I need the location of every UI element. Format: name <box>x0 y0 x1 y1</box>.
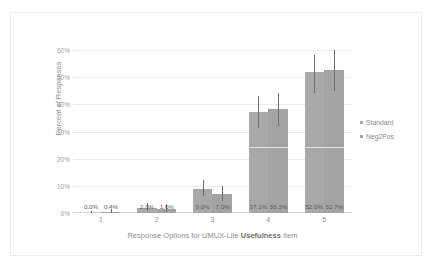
legend-swatch-icon-standard <box>360 121 363 124</box>
bar-group-4: 37.1% 38.3% <box>240 50 296 213</box>
chart-figure: Percent of Responses 60% 50% 40% 30% 20%… <box>0 0 432 269</box>
errorbar-standard-3 <box>203 180 204 195</box>
errorbar-standard-5 <box>314 55 315 93</box>
y-tick-20: 20% <box>38 155 70 162</box>
errorbar-neg2pos-5 <box>334 50 335 91</box>
data-label-neg2pos-2: 1.6% <box>153 203 181 210</box>
y-tick-60: 60% <box>38 47 70 54</box>
errorbar-standard-4 <box>258 96 259 128</box>
x-tick-3: 3 <box>185 216 241 223</box>
errorbar-neg2pos-3 <box>222 186 223 201</box>
errorbar-neg2pos-4 <box>278 93 279 126</box>
x-axis-title-emphasis: Usefulness <box>241 231 281 240</box>
x-axis-title: Response Options for UMUX-Lite Usefulnes… <box>73 231 352 240</box>
legend-item-neg2pos[interactable]: Neg2Pos <box>360 133 422 140</box>
bar-group-1: 0.0% 0.4% <box>73 50 129 213</box>
data-label-neg2pos-4: 38.3% <box>264 203 292 210</box>
x-axis-tick-labels: 1 2 3 4 5 <box>73 216 352 228</box>
data-label-neg2pos-5: 52.7% <box>320 203 348 210</box>
x-tick-1: 1 <box>73 216 129 223</box>
x-axis-title-prefix: Response Options for UMUX-Lite <box>127 231 240 240</box>
y-axis-tick-labels: 60% 50% 40% 30% 20% 10% 0% <box>38 50 70 213</box>
y-tick-30: 30% <box>38 128 70 135</box>
x-tick-2: 2 <box>129 216 185 223</box>
legend-label-standard: Standard <box>366 119 394 126</box>
y-tick-0: 0% <box>38 210 70 217</box>
bar-neg2pos-5[interactable] <box>324 70 344 213</box>
x-tick-5: 5 <box>296 216 352 223</box>
legend-item-standard[interactable]: Standard <box>360 119 422 126</box>
y-tick-10: 10% <box>38 182 70 189</box>
legend-swatch-icon-neg2pos <box>360 135 363 138</box>
bar-group-5: 52.0% 52.7% <box>296 50 352 213</box>
x-tick-4: 4 <box>240 216 296 223</box>
bar-group-3: 9.0% 7.0% <box>185 50 241 213</box>
errorbar-standard-1 <box>91 211 92 213</box>
plot-area: 0.0% 0.4% 2.0% 1.6% 9.0% 7.0% <box>73 50 352 213</box>
chart-legend: Standard Neg2Pos <box>360 119 422 147</box>
x-axis-title-suffix: Item <box>281 231 298 240</box>
bar-group-2: 2.0% 1.6% <box>129 50 185 213</box>
data-label-neg2pos-3: 7.0% <box>209 203 237 210</box>
y-tick-50: 50% <box>38 74 70 81</box>
y-tick-40: 40% <box>38 101 70 108</box>
legend-label-neg2pos: Neg2Pos <box>366 133 394 140</box>
data-label-neg2pos-1: 0.4% <box>97 203 125 210</box>
